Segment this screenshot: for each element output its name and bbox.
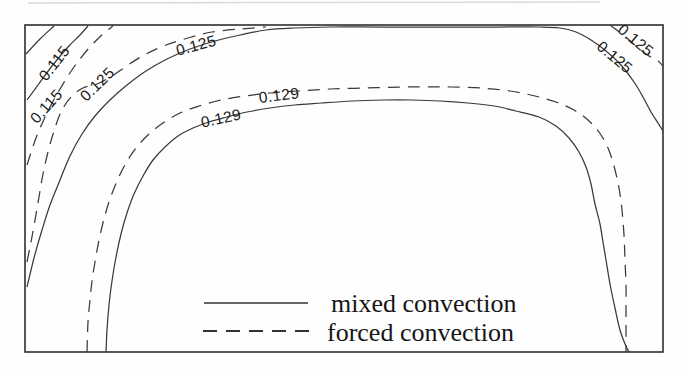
legend-label-forced-convection: forced convection (327, 318, 514, 347)
contour-label-5-0.129: 0.129 (258, 84, 301, 106)
contour-line-c0115-forced (27, 26, 113, 165)
contour-line-c0125-mixed (27, 27, 663, 287)
scan-artifact-line (28, 2, 600, 3)
contour-plot-canvas: 0.1150.1150.1250.1250.1290.1290.1250.125… (0, 0, 684, 374)
contour-labels-layer: 0.1150.1150.1250.1250.1290.1290.1250.125 (26, 20, 657, 130)
contour-label-3-0.125: 0.125 (174, 32, 218, 59)
legend-label-mixed-convection: mixed convection (331, 289, 517, 318)
contour-label-4-0.129: 0.129 (199, 106, 242, 131)
contour-line-corner-stub-topleft (26, 26, 54, 54)
contour-figure: 0.1150.1150.1250.1250.1290.1290.1250.125… (0, 0, 684, 374)
legend: mixed convection forced convection (203, 289, 517, 347)
contour-label-0-0.115: 0.115 (35, 42, 73, 84)
